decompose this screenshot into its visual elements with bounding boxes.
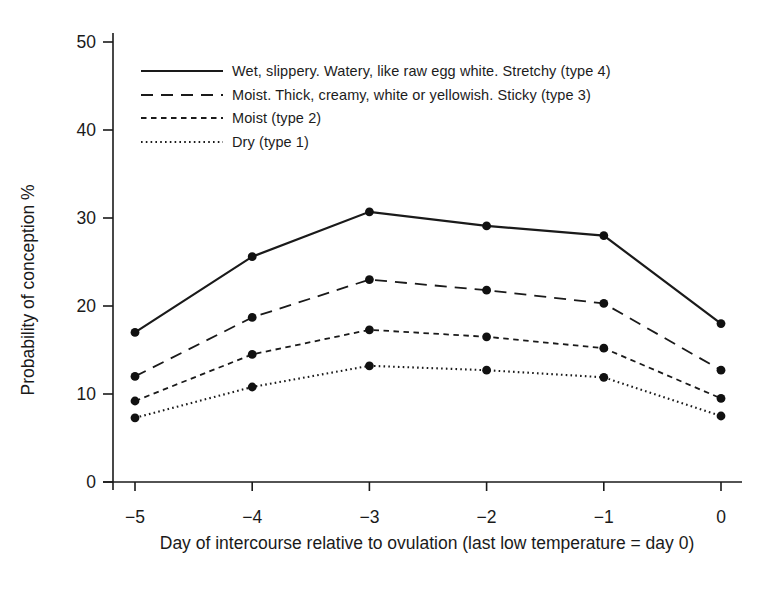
series-short-dash — [131, 325, 726, 405]
x-tick-label: 0 — [716, 507, 726, 527]
data-point — [599, 299, 608, 308]
data-point — [482, 332, 491, 341]
x-tick-label: −5 — [125, 507, 145, 527]
legend-line-sample-solid — [139, 65, 225, 77]
x-tick-label: −1 — [594, 507, 614, 527]
legend-line-sample-dotted — [139, 136, 225, 148]
y-tick-label: 0 — [86, 472, 96, 492]
legend-label-type3: Moist. Thick, creamy, white or yellowish… — [232, 87, 591, 103]
x-ticks: −5−4−3−2−10 — [125, 482, 726, 527]
x-tick-label: −4 — [242, 507, 262, 527]
y-tick-label: 50 — [77, 32, 97, 52]
chart-legend: Wet, slippery. Watery, like raw egg whit… — [139, 59, 611, 154]
series-dotted — [131, 361, 726, 422]
data-point — [131, 413, 140, 422]
y-axis-label: Probability of conception % — [18, 184, 39, 395]
data-point — [482, 222, 491, 231]
data-point — [131, 328, 140, 337]
data-point — [248, 313, 257, 322]
legend-item-type1: Dry (type 1) — [139, 130, 611, 154]
data-point — [599, 231, 608, 240]
series-long-dash — [131, 275, 726, 381]
x-tick-label: −2 — [477, 507, 497, 527]
legend-item-type3: Moist. Thick, creamy, white or yellowish… — [139, 83, 611, 107]
data-point — [599, 373, 608, 382]
data-point — [365, 325, 374, 334]
legend-item-type2: Moist (type 2) — [139, 106, 611, 130]
data-point — [717, 319, 726, 328]
data-point — [248, 383, 257, 392]
legend-label-type4: Wet, slippery. Watery, like raw egg whit… — [232, 63, 611, 79]
y-tick-label: 10 — [77, 384, 97, 404]
legend-label-type2: Moist (type 2) — [232, 110, 321, 126]
data-point — [248, 350, 257, 359]
data-point — [365, 361, 374, 370]
conception-probability-figure: 01020304050−5−4−3−2−10 Wet, slippery. Wa… — [0, 0, 774, 592]
data-point — [599, 344, 608, 353]
y-ticks: 01020304050 — [77, 32, 113, 492]
x-tick-label: −3 — [359, 507, 379, 527]
series-solid — [131, 207, 726, 336]
data-point — [248, 252, 257, 261]
data-point — [717, 366, 726, 375]
legend-line-sample-long-dash — [139, 89, 225, 101]
x-axis-label: Day of intercourse relative to ovulation… — [80, 533, 774, 554]
legend-item-type4: Wet, slippery. Watery, like raw egg whit… — [139, 59, 611, 83]
data-point — [131, 372, 140, 381]
y-tick-label: 20 — [77, 296, 97, 316]
y-tick-label: 30 — [77, 208, 97, 228]
data-point — [482, 366, 491, 375]
data-point — [717, 394, 726, 403]
data-point — [717, 412, 726, 421]
data-point — [365, 275, 374, 284]
legend-line-sample-short-dash — [139, 112, 225, 124]
data-point — [365, 207, 374, 216]
y-tick-label: 40 — [77, 120, 97, 140]
legend-label-type1: Dry (type 1) — [232, 134, 309, 150]
data-point — [482, 286, 491, 295]
data-point — [131, 397, 140, 406]
